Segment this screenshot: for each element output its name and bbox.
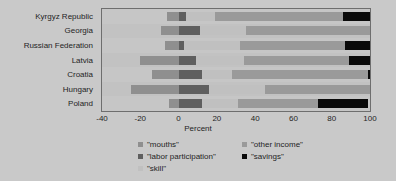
- bar-segment: [232, 70, 368, 79]
- bar-segment: [186, 12, 215, 21]
- legend-label: "other income": [251, 140, 303, 149]
- x-axis-tick: 20: [212, 114, 221, 123]
- bar-segment: [265, 85, 371, 94]
- bar-segment: [246, 26, 371, 35]
- table-row: [102, 99, 370, 108]
- y-axis-label: Poland: [68, 99, 93, 108]
- x-axis-tick: 40: [251, 114, 260, 123]
- table-row: [102, 41, 370, 50]
- bar-segment: [167, 12, 178, 21]
- legend-swatch-icon: [138, 166, 143, 171]
- legend-swatch-icon: [242, 142, 247, 147]
- bar-segment: [349, 56, 371, 65]
- table-row: [102, 85, 370, 94]
- y-axis-labels: Kyrgyz RepublicGeorgiaRussian Federation…: [0, 8, 97, 112]
- legend-label: "savings": [251, 152, 284, 161]
- table-row: [102, 70, 370, 79]
- bar-segment: [202, 70, 233, 79]
- x-axis-tick: 80: [327, 114, 336, 123]
- bar-segment: [179, 85, 210, 94]
- gridline: [370, 9, 371, 111]
- x-axis-tick: 100: [363, 114, 376, 123]
- legend-label: "labor participation": [147, 152, 216, 161]
- x-axis-tick: -20: [135, 114, 147, 123]
- x-axis-tick: -40: [96, 114, 108, 123]
- bar-segment: [318, 99, 368, 108]
- legend-swatch-icon: [138, 154, 143, 159]
- bar-segment: [215, 12, 343, 21]
- legend-item[interactable]: "other income": [242, 139, 303, 150]
- x-axis-tick: 0: [176, 114, 180, 123]
- bar-segment: [131, 85, 179, 94]
- bar-segment: [343, 12, 371, 21]
- bar-segment: [368, 70, 371, 79]
- legend-item[interactable]: "labor participation": [138, 151, 216, 162]
- bar-segment: [244, 56, 349, 65]
- table-row: [102, 56, 370, 65]
- bar-segment: [209, 85, 265, 94]
- legend-item[interactable]: "savings": [242, 151, 303, 162]
- y-axis-label: Latvia: [72, 56, 93, 65]
- legend-swatch-icon: [138, 142, 143, 147]
- bar-segment: [200, 26, 246, 35]
- y-axis-label: Croatia: [67, 70, 93, 79]
- bar-segment: [179, 12, 187, 21]
- y-axis-label: Russian Federation: [24, 41, 93, 50]
- plot-area: [101, 8, 371, 112]
- bar-segment: [345, 41, 371, 50]
- bar-segment: [169, 99, 179, 108]
- bar-segment: [140, 56, 178, 65]
- bar-segment: [161, 26, 178, 35]
- legend-swatch-icon: [242, 154, 247, 159]
- x-axis-tick: 60: [289, 114, 298, 123]
- bar-segment: [202, 99, 238, 108]
- bar-segment: [179, 99, 202, 108]
- x-axis-title: Percent: [0, 124, 396, 133]
- bar-segment: [179, 26, 200, 35]
- legend: "mouths""labor participation""skill" "ot…: [138, 139, 388, 177]
- chart-container: Kyrgyz RepublicGeorgiaRussian Federation…: [0, 0, 396, 181]
- bar-segment: [165, 41, 178, 50]
- table-row: [102, 12, 370, 21]
- bar-segment: [184, 41, 240, 50]
- legend-column-2: "other income""savings": [242, 139, 303, 163]
- legend-column-1: "mouths""labor participation""skill": [138, 139, 216, 175]
- bar-segment: [179, 56, 196, 65]
- legend-item[interactable]: "skill": [138, 163, 216, 174]
- bar-segment: [238, 99, 318, 108]
- bar-segment: [240, 41, 345, 50]
- bar-segment: [196, 56, 244, 65]
- y-axis-label: Kyrgyz Republic: [35, 12, 93, 21]
- legend-item[interactable]: "mouths": [138, 139, 216, 150]
- bar-segment: [152, 70, 179, 79]
- bar-segment: [179, 70, 202, 79]
- table-row: [102, 26, 370, 35]
- y-axis-label: Hungary: [63, 85, 93, 94]
- y-axis-label: Georgia: [65, 26, 93, 35]
- legend-label: "mouths": [147, 140, 179, 149]
- legend-label: "skill": [147, 164, 166, 173]
